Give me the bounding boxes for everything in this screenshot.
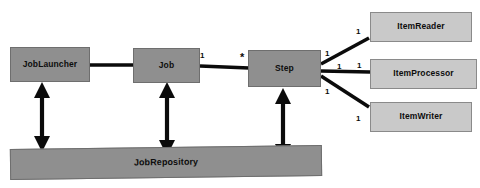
arrow-joblauncher-jobrepository	[34, 82, 50, 152]
node-itemreader[interactable]: ItemReader	[370, 12, 472, 42]
multiplicity-step-processor-source: 1	[337, 63, 341, 71]
node-joblauncher[interactable]: JobLauncher	[10, 47, 90, 82]
multiplicity-job-step-source: 1	[200, 52, 204, 60]
node-itemreader-label: ItemReader	[397, 22, 444, 31]
node-itemwriter[interactable]: ItemWriter	[370, 102, 472, 132]
node-joblauncher-label: JobLauncher	[23, 60, 77, 69]
node-step-label: Step	[275, 64, 294, 73]
node-job[interactable]: Job	[133, 48, 200, 83]
node-job-label: Job	[159, 61, 174, 70]
multiplicity-job-step-target: *	[240, 52, 244, 63]
multiplicity-step-reader-target: 1	[356, 28, 360, 36]
node-itemwriter-label: ItemWriter	[400, 112, 443, 121]
uml-class-diagram: JobLauncher Job Step ItemReader ItemProc…	[0, 0, 480, 188]
node-step[interactable]: Step	[248, 50, 321, 87]
arrow-job-jobrepository	[159, 82, 175, 156]
node-itemprocessor[interactable]: ItemProcessor	[370, 59, 477, 89]
link-step-itemprocessor	[321, 71, 370, 72]
multiplicity-step-writer-target: 1	[356, 115, 360, 123]
multiplicity-step-processor-target: 1	[357, 62, 361, 70]
link-job-step	[200, 66, 249, 68]
node-jobrepository-label: JobRepository	[134, 157, 198, 168]
node-itemprocessor-label: ItemProcessor	[393, 69, 453, 78]
node-jobrepository[interactable]: JobRepository	[10, 145, 322, 180]
multiplicity-step-reader-source: 1	[325, 50, 329, 58]
multiplicity-step-writer-source: 1	[325, 88, 329, 96]
